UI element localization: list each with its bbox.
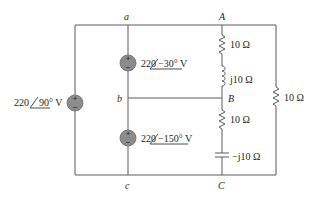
- svg-text:−: −: [126, 138, 131, 147]
- resistor-right-label: 10 Ω: [284, 93, 304, 103]
- resistor-AB-label: 10 Ω: [230, 40, 250, 50]
- node-C-label: C: [218, 181, 225, 191]
- node-a-label: a: [124, 12, 129, 22]
- source-top-angle: −30° V: [158, 59, 187, 69]
- inductor-AB-label: j10 Ω: [230, 75, 253, 85]
- node-b-label: b: [117, 94, 122, 104]
- voltage-source-top: + −: [120, 54, 136, 72]
- source-left-angle: 90° V: [39, 98, 63, 108]
- resistor-BC-label: 10 Ω: [230, 115, 250, 125]
- svg-text:+: +: [73, 94, 78, 103]
- voltage-source-left: + −: [67, 94, 83, 112]
- node-B-label: B: [228, 94, 234, 104]
- capacitor-BC-label: −j10 Ω: [232, 152, 260, 162]
- svg-text:−: −: [73, 103, 78, 112]
- source-left-mag: 220: [14, 98, 29, 108]
- svg-text:+: +: [126, 129, 131, 138]
- source-bottom-mag: 220: [141, 134, 156, 144]
- svg-text:+: +: [126, 54, 131, 63]
- source-bottom-angle: −150° V: [158, 134, 192, 144]
- circuit-diagram: + − + − + − a A b B c C 220 90° V 220 −3…: [0, 0, 320, 199]
- voltage-source-bottom: + −: [120, 129, 136, 147]
- node-c-label: c: [125, 181, 129, 191]
- svg-text:−: −: [126, 63, 131, 72]
- node-A-label: A: [219, 12, 225, 22]
- source-top-mag: 220: [141, 59, 156, 69]
